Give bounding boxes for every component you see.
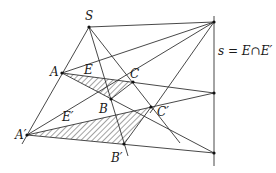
label-a: A — [49, 65, 59, 79]
point-s — [87, 25, 90, 28]
label-c-prime: C′ — [157, 105, 169, 119]
triangle-abc-prime-plane-e-prime — [27, 107, 151, 144]
point-axis-top — [212, 20, 215, 23]
label-axis: s = E∩E′ — [218, 44, 272, 58]
label-a-prime: A′ — [14, 128, 27, 142]
point-c-prime — [149, 105, 152, 108]
point-axis-low — [212, 151, 215, 154]
point-b-prime — [122, 142, 125, 145]
point-a — [60, 71, 63, 74]
label-s: S — [85, 9, 93, 23]
label-b: B — [98, 102, 108, 116]
label-e-prime: E′ — [61, 110, 74, 124]
label-b-prime: B′ — [110, 151, 123, 165]
line-s-top-down — [150, 22, 214, 113]
label-e: E — [83, 63, 93, 77]
line-s-top-to-left — [89, 22, 214, 27]
point-axis-mid — [212, 91, 215, 94]
desargues-diagram: S A E C B E′ A′ C′ B′ s = E∩E′ — [0, 0, 276, 173]
label-c: C — [130, 67, 139, 81]
point-b — [109, 97, 112, 100]
